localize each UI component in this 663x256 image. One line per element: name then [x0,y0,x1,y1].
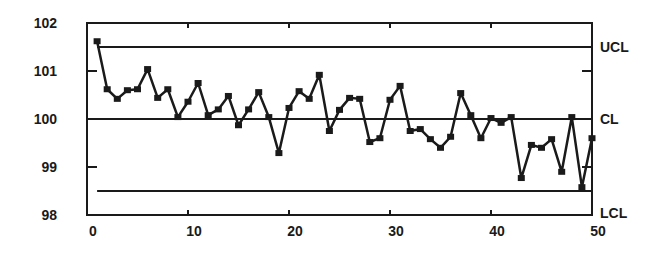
data-point-marker [316,72,323,78]
data-point-marker [336,107,343,113]
data-point-marker [518,175,525,181]
y-tick-label: 100 [34,111,58,127]
data-point-marker [366,139,373,145]
data-series-line [97,41,592,187]
data-point-marker [498,120,505,126]
control-label-cl: CL [600,111,619,127]
data-point-marker [417,126,424,132]
data-point-marker [387,97,394,103]
data-point-marker [578,184,585,190]
y-tick-label: 99 [41,159,57,175]
x-axis: 01020304050 [89,23,606,239]
x-tick-label: 10 [186,223,202,239]
control-limit-lines [87,47,592,191]
data-point-marker [195,80,202,86]
data-point-marker [235,122,242,128]
data-point-marker [104,86,111,92]
data-point-marker [488,115,495,121]
control-label-lcl: LCL [600,205,628,221]
data-point-marker [164,86,171,92]
y-tick-label: 102 [34,15,58,31]
control-limit-labels: UCLCLLCL [600,39,629,221]
data-point-marker [245,106,252,112]
data-point-marker [548,136,555,142]
data-point-marker [528,142,535,148]
data-point-marker [114,96,121,102]
control-chart: 9899100101102 01020304050 UCLCLLCL [0,0,663,256]
control-label-ucl: UCL [600,39,629,55]
data-point-marker [94,38,101,44]
data-point-marker [205,112,212,118]
data-point-marker [508,114,515,120]
data-point-marker [589,135,596,141]
y-tick-label: 101 [34,63,58,79]
data-point-marker [407,128,414,134]
data-point-marker [427,136,434,142]
y-tick-label: 98 [41,207,57,223]
data-point-marker [174,114,181,120]
x-tick-label: 20 [287,223,303,239]
series-polyline [97,41,592,187]
data-point-marker [346,95,353,101]
data-point-marker [154,95,161,101]
data-point-marker [568,114,575,120]
data-point-marker [326,128,333,134]
data-point-marker [306,96,313,102]
chart-canvas: 9899100101102 01020304050 UCLCLLCL [0,0,663,256]
data-point-marker [296,88,303,94]
data-point-marker [134,86,141,92]
data-point-marker [437,145,444,151]
data-point-marker [286,105,293,111]
data-point-marker [255,89,262,95]
data-point-marker [185,99,192,105]
data-point-marker [265,114,272,120]
data-point-marker [376,135,383,141]
data-point-marker [356,96,363,102]
data-point-marker [457,90,464,96]
x-tick-label: 30 [388,223,404,239]
data-point-marker [447,134,454,140]
x-tick-label: 50 [590,223,606,239]
x-tick-label: 0 [89,223,97,239]
data-point-marker [275,150,282,156]
data-point-marker [215,106,222,112]
data-point-marker [225,93,232,99]
data-point-marker [467,112,474,118]
data-point-marker [558,169,565,175]
x-tick-label: 40 [489,223,505,239]
data-point-marker [144,66,151,72]
data-point-marker [538,145,545,151]
data-point-marker [397,83,404,89]
data-point-marker [124,87,131,93]
data-point-marker [477,135,484,141]
